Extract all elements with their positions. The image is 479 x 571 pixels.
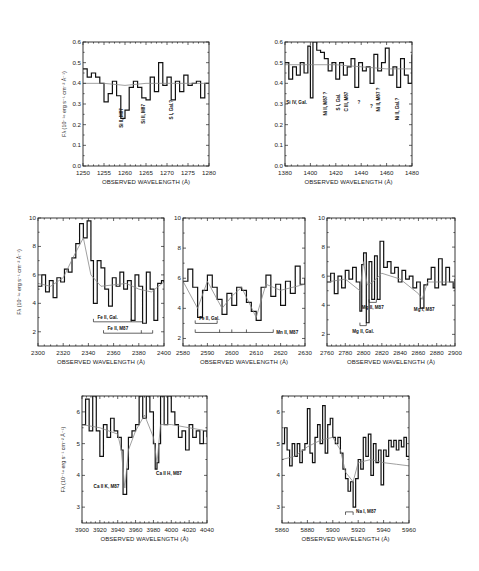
x-tick-label: 5920 (351, 526, 365, 533)
line-id-label: Si II, M87 (119, 108, 124, 128)
x-tick-label: 1280 (202, 169, 216, 176)
x-tick-label: 5960 (402, 526, 416, 533)
line-id-label: S I, Gal.? (169, 100, 174, 120)
y-tick-label: 10 (318, 214, 325, 221)
y-tick-label: 0.6 (72, 38, 81, 45)
spectrum-panel-p3: 230023202340236023802400246810OBSERVED W… (16, 214, 171, 365)
y-tick-label: 2 (33, 328, 37, 335)
x-tick-label: 1260 (118, 169, 132, 176)
x-tick-label: 3900 (75, 526, 89, 533)
x-tick-label: 1275 (181, 169, 195, 176)
x-tick-label: 2620 (274, 349, 288, 356)
y-tick-label: 0.5 (72, 59, 81, 66)
y-tick-label: 3 (77, 503, 81, 510)
x-tick-label: 3940 (111, 526, 125, 533)
x-tick-label: 2580 (176, 349, 190, 356)
y-tick-label: 6 (33, 271, 37, 278)
spectrum-line (183, 266, 305, 320)
x-axis-label: OBSERVED WAVELENGTH (Å) (57, 359, 145, 365)
y-tick-label: 4 (77, 471, 81, 478)
y-tick-label: 6 (277, 408, 281, 415)
x-axis-label: OBSERVED WAVELENGTH (Å) (304, 179, 392, 185)
y-tick-label: 10 (174, 214, 181, 221)
x-tick-label: 1250 (76, 169, 90, 176)
x-tick-label: 1270 (160, 169, 174, 176)
line-id-label: C III, M87 (345, 91, 350, 111)
spectrum-line (285, 42, 412, 98)
y-tick-label: 0.2 (72, 121, 81, 128)
line-id-label: Si IV, Gal. (286, 100, 307, 105)
line-id-label: Ca II H, M87 (156, 471, 182, 476)
model-line (82, 415, 207, 488)
x-tick-label: 1400 (304, 169, 318, 176)
y-tick-label: 4 (277, 471, 281, 478)
y-tick-label: 5 (277, 440, 281, 447)
x-axis-label: OBSERVED WAVELENGTH (Å) (100, 536, 188, 542)
x-tick-label: 2380 (132, 349, 146, 356)
x-tick-label: 1380 (278, 169, 292, 176)
y-tick-label: 2 (178, 334, 182, 341)
x-tick-label: 1255 (97, 169, 111, 176)
x-tick-label: 2320 (56, 349, 70, 356)
x-tick-label: 4020 (182, 526, 196, 533)
x-tick-label: 2630 (298, 349, 312, 356)
line-id-label: Ni II, M87 ? (376, 87, 381, 111)
model-line (183, 281, 305, 317)
x-tick-label: 5860 (275, 526, 289, 533)
y-tick-label: 8 (33, 242, 37, 249)
x-tick-label: 2360 (107, 349, 121, 356)
x-axis-label: OBSERVED WAVELENGTH (Å) (347, 359, 435, 365)
x-tick-label: 2340 (82, 349, 96, 356)
y-tick-label: 6 (178, 274, 182, 281)
x-tick-label: 1440 (354, 169, 368, 176)
x-tick-label: 2590 (201, 349, 215, 356)
plot-frame (282, 396, 409, 523)
x-tick-label: 2880 (430, 349, 444, 356)
spectrum-line (82, 396, 207, 494)
x-tick-label: 5900 (326, 526, 340, 533)
x-axis-label: OBSERVED WAVELENGTH (Å) (102, 179, 190, 185)
y-tick-label: 0.5 (274, 59, 283, 66)
y-tick-label: 6 (322, 272, 326, 279)
x-tick-label: 2900 (448, 349, 462, 356)
x-tick-label: 3980 (147, 526, 161, 533)
y-tick-label: 0.4 (274, 79, 283, 86)
line-id-label: Mn II, M87 (276, 330, 298, 335)
y-tick-label: 0.1 (72, 141, 81, 148)
spectrum-panel-p7: 5860588059005920594059603456OBSERVED WAV… (275, 396, 416, 542)
y-tick-label: 0.4 (72, 79, 81, 86)
y-tick-label: 8 (322, 243, 326, 250)
line-id-label: Ni II, Gal.? (395, 98, 400, 121)
x-axis-label: OBSERVED WAVELENGTH (Å) (301, 536, 389, 542)
line-id-label: Fe II, M87 (108, 326, 129, 331)
y-tick-label: 10 (29, 214, 36, 221)
line-id-label: Fe II, Gal. (199, 316, 219, 321)
y-tick-label: 4 (178, 304, 182, 311)
line-id-label: ? (370, 104, 373, 109)
spectrum-panel-p5: 27602780280028202840286028802900246810OB… (318, 214, 462, 365)
y-tick-label: 0.0 (72, 162, 81, 169)
y-axis-label: Fλ (10⁻¹⁶ erg s⁻¹ cm⁻² Å⁻¹) (60, 426, 66, 492)
x-tick-label: 2400 (157, 349, 171, 356)
y-tick-label: 0.6 (274, 38, 283, 45)
line-id-label: Fe II, Gal. (97, 315, 117, 320)
x-tick-label: 2800 (357, 349, 371, 356)
spectrum-panel-p6: 390039203940396039804000402040403456OBSE… (60, 396, 214, 542)
spectrum-panel-p4: 258025902600261026202630246810OBSERVED W… (174, 214, 312, 365)
y-axis-label: Fλ (10⁻¹⁵ erg s⁻¹ cm⁻² Å⁻¹) (61, 71, 67, 137)
x-tick-label: 1265 (139, 169, 153, 176)
y-tick-label: 5 (77, 440, 81, 447)
y-tick-label: 4 (33, 299, 37, 306)
x-tick-label: 2860 (412, 349, 426, 356)
spectrum-line (38, 221, 164, 323)
x-tick-label: 4000 (164, 526, 178, 533)
x-tick-label: 1420 (329, 169, 343, 176)
x-tick-label: 1460 (380, 169, 394, 176)
y-tick-label: 0.2 (274, 121, 283, 128)
line-id-label: S I, Gal. (336, 94, 341, 111)
line-id-label: Mg II, Gal. (352, 329, 374, 334)
y-tick-label: 0.1 (274, 141, 283, 148)
y-tick-label: 6 (77, 408, 81, 415)
line-id-label: Ni II, M87 ? (323, 91, 328, 115)
x-tick-label: 2780 (338, 349, 352, 356)
